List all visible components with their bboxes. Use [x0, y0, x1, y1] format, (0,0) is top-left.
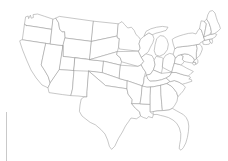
- map-page: Washington Oregon California Nevada Idah…: [0, 0, 228, 161]
- state-MN[interactable]: Minnesota: [117, 22, 140, 52]
- state-WY[interactable]: Wyoming: [63, 38, 92, 60]
- scan-line-artifact: [6, 112, 7, 161]
- state-NJ[interactable]: New Jersey: [196, 44, 202, 58]
- state-AL[interactable]: Alabama: [150, 85, 162, 112]
- state-FL[interactable]: Florida: [153, 108, 189, 150]
- us-states-outline-map: Washington Oregon California Nevada Idah…: [0, 0, 228, 161]
- state-WI[interactable]: Wisconsin: [139, 33, 154, 57]
